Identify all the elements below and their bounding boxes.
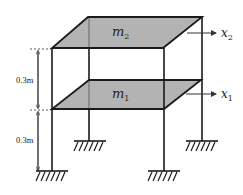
displacement-x1: x1 <box>186 87 233 103</box>
displacement-label-x2: x2 <box>221 26 233 42</box>
fixed-support-front-left <box>36 171 68 181</box>
dimension-label-upper: 0.3m <box>16 75 34 85</box>
displacement-x2: x2 <box>187 26 233 42</box>
fixed-support-back-left <box>74 141 106 151</box>
dimension-label-lower: 0.3m <box>16 135 34 145</box>
fixed-support-back-right <box>186 141 218 151</box>
dimension-lines: 0.3m 0.3m <box>16 49 52 170</box>
frame-diagram: m2 m1 x2 x1 0.3m 0.3m <box>0 0 243 195</box>
fixed-support-front-right <box>148 171 180 181</box>
displacement-label-x1: x1 <box>221 87 233 103</box>
